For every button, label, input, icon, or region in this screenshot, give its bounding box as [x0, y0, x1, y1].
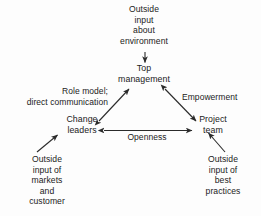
diagram-canvas: Outside input about environment Top mana… [0, 0, 261, 216]
node-project-team: Project team [186, 114, 240, 135]
arrow-markets-to-change-leaders [37, 135, 58, 152]
node-top-management: Top management [104, 63, 184, 84]
node-change-leaders: Change leaders [52, 114, 112, 135]
external-input-best-practices-label: Outside input of best practices [190, 154, 256, 196]
external-input-environment-label: Outside input about environment [96, 4, 192, 46]
edge-label-empowerment: Empowerment [182, 92, 256, 103]
arrow-best-practices-to-project-team [209, 133, 226, 152]
edge-label-openness: Openness [112, 132, 182, 143]
edge-label-role-model: Role model; direct communication [0, 86, 108, 107]
external-input-markets-label: Outside input of markets and customer [12, 154, 82, 207]
